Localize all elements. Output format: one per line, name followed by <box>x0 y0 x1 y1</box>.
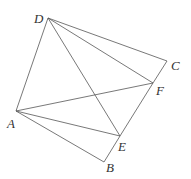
segment-ba <box>16 111 104 162</box>
segment-af <box>16 83 153 111</box>
point-label-e: E <box>117 139 126 154</box>
point-label-d: D <box>33 11 44 26</box>
segments-group <box>16 18 167 162</box>
point-label-a: A <box>6 116 15 131</box>
point-labels-group: A B C D E F <box>6 11 180 175</box>
segment-fe <box>120 83 153 136</box>
segment-ad <box>16 18 48 111</box>
segment-cf <box>153 61 167 83</box>
point-label-f: F <box>155 83 165 98</box>
geometry-diagram: A B C D E F <box>0 0 191 179</box>
point-label-b: B <box>106 160 114 175</box>
segment-ae <box>16 111 120 136</box>
point-label-c: C <box>171 58 180 73</box>
segment-de <box>48 18 120 136</box>
